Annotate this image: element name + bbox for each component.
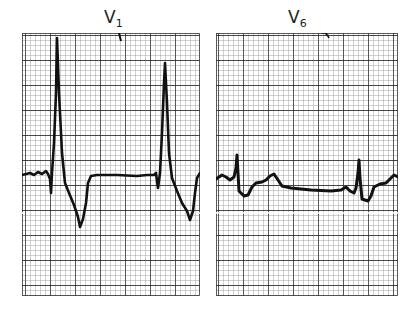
lead-label-v6-sub: 6: [300, 17, 307, 30]
lead-label-v6-main: V: [288, 7, 300, 27]
lead-label-v1: V1: [104, 7, 123, 30]
lead-label-v6: V6: [288, 7, 307, 30]
ecg-grid-v1: [22, 33, 200, 296]
ecg-panel-v6: [216, 33, 398, 296]
ecg-panel-v1: [22, 33, 200, 296]
ecg-grid-v6: [216, 33, 398, 296]
lead-label-v1-main: V: [104, 7, 116, 27]
lead-label-v1-sub: 1: [116, 17, 123, 30]
